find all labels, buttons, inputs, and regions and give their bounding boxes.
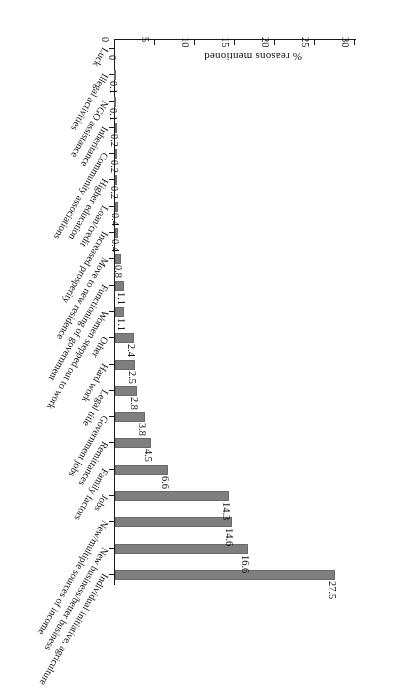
bar <box>115 307 124 317</box>
bar-value-label: 0.1 <box>108 81 119 94</box>
value-axis-tick-label: 25 <box>300 37 311 48</box>
bar-value-label: 2.4 <box>126 344 137 357</box>
bar <box>115 333 134 343</box>
category-axis-tick <box>109 153 114 154</box>
value-axis-tick-label: 10 <box>180 37 191 48</box>
category-axis-tick <box>109 390 114 391</box>
bar <box>115 254 121 264</box>
category-axis-tick <box>109 495 114 496</box>
bar-value-label: 1.1 <box>116 292 127 305</box>
value-axis-tick-label: 30 <box>340 37 351 48</box>
bar <box>115 123 117 133</box>
bar <box>115 386 137 396</box>
category-axis-tick <box>109 127 114 128</box>
bar-value-label: 0.2 <box>109 160 120 173</box>
bar-value-label: 0.2 <box>109 134 120 147</box>
bar <box>115 202 118 212</box>
bar-value-label: 0.8 <box>113 265 124 278</box>
bar <box>115 360 135 370</box>
bar <box>115 176 117 186</box>
bar <box>115 281 124 291</box>
value-axis-tick-label: 0 <box>100 37 111 42</box>
category-axis-tick <box>109 443 114 444</box>
category-axis-tick <box>109 574 114 575</box>
category-axis-tick <box>109 258 114 259</box>
value-axis-line <box>115 39 356 40</box>
value-axis-tick-label: 20 <box>260 37 271 48</box>
value-axis-tick-label: 5 <box>140 37 151 42</box>
value-axis-tick <box>114 39 115 45</box>
bar <box>115 517 232 527</box>
category-axis-tick <box>109 311 114 312</box>
bar <box>115 491 229 501</box>
bar-value-label: 0.1 <box>108 108 119 121</box>
bar <box>115 570 335 580</box>
bar-value-label: 27.5 <box>327 581 338 599</box>
bar <box>115 465 168 475</box>
bar <box>114 70 116 80</box>
category-axis-tick <box>109 285 114 286</box>
bar-value-label: 14.3 <box>221 502 232 520</box>
category-axis-tick <box>109 416 114 417</box>
category-axis-tick <box>109 232 114 233</box>
category-axis-tick <box>109 548 114 549</box>
value-axis-tick-label: 15 <box>220 37 231 48</box>
bar-value-label: 4.5 <box>143 450 154 463</box>
bar-value-label: 16.6 <box>240 555 251 573</box>
value-axis-tick <box>354 39 355 45</box>
value-axis-tick <box>154 39 155 45</box>
value-axis-tick <box>274 39 275 45</box>
bar-value-label: 0.4 <box>110 213 121 226</box>
bar-value-label: 0.2 <box>109 187 120 200</box>
bar-value-label: 14.6 <box>224 528 235 546</box>
category-axis-tick <box>109 469 114 470</box>
bar <box>115 228 118 238</box>
bar-value-label: 0.4 <box>110 239 121 252</box>
category-axis-tick <box>109 48 114 49</box>
category-axis-tick <box>109 206 114 207</box>
category-axis-tick <box>109 180 114 181</box>
value-axis-tick <box>234 39 235 45</box>
bar-value-label: 6.6 <box>160 476 171 489</box>
bar <box>115 149 117 159</box>
bar-value-label: 1.1 <box>116 318 127 331</box>
value-axis-title: % reasons mentioned <box>103 51 401 63</box>
bar <box>114 97 116 107</box>
bar <box>115 412 145 422</box>
bar-value-label: 0 <box>107 55 118 60</box>
bar-value-label: 2.8 <box>129 397 140 410</box>
category-axis-tick <box>109 521 114 522</box>
category-axis-tick <box>109 364 114 365</box>
bar-value-label: 2.5 <box>127 371 138 384</box>
value-axis-tick <box>194 39 195 45</box>
value-axis-tick <box>314 39 315 45</box>
category-axis-tick <box>109 337 114 338</box>
bar-value-label: 3.8 <box>137 423 148 436</box>
bar <box>115 439 151 449</box>
